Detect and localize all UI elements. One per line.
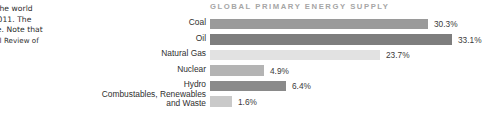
bar-value-combustables: 1.6%	[238, 97, 257, 107]
bar-track-oil: 33.1%	[210, 34, 504, 45]
bar-track-coal: 30.3%	[210, 19, 504, 30]
bar-fill-oil	[210, 34, 452, 45]
bar-track-hydro: 6.4%	[210, 81, 504, 92]
bar-label-natural-gas: Natural Gas	[21, 48, 206, 58]
bar-track-natural-gas: 23.7%	[210, 50, 504, 61]
bar-fill-coal	[210, 19, 428, 30]
bar-row-combustables: Combustables, Renewables and Waste 1.6%	[0, 95, 504, 111]
bar-chart: GLOBAL PRIMARY ENERGY SUPPLY Coal 30.3% …	[0, 0, 504, 119]
bar-label-coal: Coal	[21, 17, 206, 27]
chart-title: GLOBAL PRIMARY ENERGY SUPPLY	[210, 2, 390, 11]
bar-value-coal: 30.3%	[434, 19, 458, 29]
bar-track-combustables: 1.6%	[210, 96, 504, 107]
bar-row-coal: Coal 30.3%	[0, 17, 504, 33]
bar-fill-natural-gas	[210, 50, 380, 61]
bar-row-natural-gas: Natural Gas 23.7%	[0, 48, 504, 64]
figure-canvas: upply. The world lent in 2011. The own h…	[0, 0, 504, 119]
bar-value-natural-gas: 23.7%	[386, 50, 410, 60]
bar-fill-hydro	[210, 81, 286, 92]
bar-label-nuclear: Nuclear	[21, 64, 206, 74]
bar-row-nuclear: Nuclear 4.9%	[0, 64, 504, 80]
bar-value-nuclear: 4.9%	[270, 66, 289, 76]
bar-fill-combustables	[210, 96, 232, 107]
bar-fill-nuclear	[210, 65, 264, 76]
bar-rows: Coal 30.3% Oil 33.1% Natural Gas 23.7%	[0, 17, 504, 110]
bar-track-nuclear: 4.9%	[210, 65, 504, 76]
bar-value-oil: 33.1%	[458, 35, 482, 45]
bar-label-combustables: Combustables, Renewables and Waste	[21, 90, 206, 109]
bar-label-oil: Oil	[21, 33, 206, 43]
bar-value-hydro: 6.4%	[292, 81, 311, 91]
bar-label-hydro: Hydro	[21, 79, 206, 89]
bar-row-oil: Oil 33.1%	[0, 33, 504, 49]
